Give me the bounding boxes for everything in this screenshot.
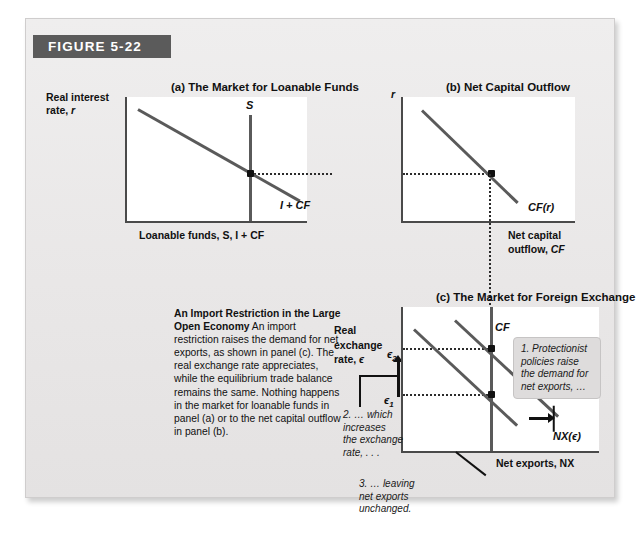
panel-b-x-axis-line1: Net capital bbox=[508, 229, 561, 241]
panel-c-cf-curve-label: CF bbox=[495, 321, 510, 333]
panel-c-eps1-tick-label: ϵ1 bbox=[384, 394, 394, 409]
panel-b-y-axis-label: r bbox=[391, 88, 395, 101]
panel-c-appreciation-arrow-shaft bbox=[397, 361, 400, 397]
panel-b-plot-area: CF(r) bbox=[401, 97, 575, 223]
body-text-paragraph: An import restriction raises the demand … bbox=[174, 321, 341, 437]
panel-c-title: (c) The Market for Foreign Exchange bbox=[436, 291, 635, 303]
panel-a-supply-curve bbox=[249, 115, 252, 221]
panel-c-y-axis-line2: exchange bbox=[334, 339, 382, 351]
panel-a-demand-curve bbox=[137, 108, 300, 202]
panel-c-eps2-guide bbox=[403, 348, 491, 350]
panel-c-x-axis-label: Net exports, NX bbox=[496, 457, 574, 470]
panel-c-note2-leader-horizontal bbox=[359, 375, 398, 377]
panel-c-equilibrium-point-eps1 bbox=[488, 391, 495, 398]
panel-b-x-axis-label: Net capital outflow, CF bbox=[508, 229, 565, 256]
panel-c-shift-arrow-shaft bbox=[529, 417, 549, 420]
figure-card: FIGURE 5-22 (a) The Market for Loanable … bbox=[25, 18, 615, 498]
panel-c-cf-curve bbox=[490, 307, 493, 451]
panel-c-eps1-guide bbox=[403, 394, 491, 396]
panel-a-supply-curve-label: S bbox=[246, 99, 253, 111]
panel-a-y-axis-label: Real interest rate, r bbox=[46, 91, 109, 117]
panel-b-to-c-connector bbox=[489, 174, 491, 309]
panel-c-y-axis-label: Real exchange rate, ϵ bbox=[334, 323, 382, 367]
panel-b-cf-curve-label: CF(r) bbox=[528, 201, 554, 213]
panel-a-plot-area: S I + CF bbox=[125, 97, 307, 223]
panel-c-y-axis-line1: Real bbox=[334, 324, 356, 336]
panel-a-equilibrium-guide bbox=[250, 173, 332, 175]
panel-a-y-axis-line1: Real interest bbox=[46, 91, 109, 103]
figure-root: FIGURE 5-22 (a) The Market for Loanable … bbox=[0, 0, 638, 545]
annotation-note-3: 3. … leaving net exports unchanged. bbox=[359, 478, 415, 516]
body-text-block: An Import Restriction in the Large Open … bbox=[174, 307, 342, 438]
panel-c-equilibrium-point-eps2 bbox=[488, 345, 495, 352]
panel-c-note2-leader-vertical bbox=[359, 375, 361, 407]
panel-b-title: (b) Net Capital Outflow bbox=[446, 81, 570, 93]
panel-b-x-axis-line2: outflow, CF bbox=[508, 243, 565, 255]
panel-b-cf-curve bbox=[421, 109, 519, 204]
annotation-callout-1: 1. Protectionist policies raise the dema… bbox=[513, 337, 601, 399]
panel-a-equilibrium-point bbox=[247, 170, 254, 177]
panel-c-eps1-subscript: 1 bbox=[389, 400, 393, 409]
panel-a-title: (a) The Market for Loanable Funds bbox=[171, 81, 359, 93]
annotation-note-2: 2. … which increases the exchange rate, … bbox=[343, 409, 403, 459]
panel-c-nx-curve-label: NX(ϵ) bbox=[553, 430, 581, 442]
annotation-1-leader bbox=[553, 406, 555, 432]
figure-banner-label: FIGURE 5-22 bbox=[48, 39, 142, 54]
panel-a-y-axis-line2: rate, r bbox=[46, 104, 75, 116]
panel-c-nx-initial-curve bbox=[413, 328, 518, 426]
panel-c-y-axis-line3: rate, ϵ bbox=[334, 353, 364, 365]
panel-b-equilibrium-guide-horizontal bbox=[403, 173, 491, 175]
panel-a-x-axis-label: Loanable funds, S, I + CF bbox=[139, 229, 264, 242]
panel-a-demand-curve-label: I + CF bbox=[280, 199, 310, 211]
figure-banner: FIGURE 5-22 bbox=[33, 35, 171, 58]
